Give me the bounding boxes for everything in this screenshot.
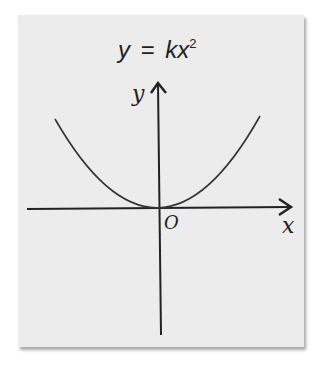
equation-title: y = kx2: [116, 36, 197, 63]
origin-label: O: [164, 212, 179, 233]
x-axis-label: x: [282, 213, 295, 238]
y-axis-label: y: [131, 81, 145, 106]
parabola-diagram: y = kx2 y x O: [0, 0, 316, 376]
parabola-curve: [55, 116, 260, 208]
